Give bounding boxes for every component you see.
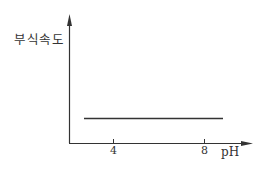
x-tick-label-4: 4 <box>110 144 117 157</box>
x-axis-label: pH <box>221 145 239 159</box>
chart: 부식속도 4 8 pH <box>0 0 268 174</box>
y-axis-label: 부식속도 <box>14 29 64 48</box>
x-tick-label-8: 8 <box>201 144 208 157</box>
x-axis-arrow-icon <box>241 141 253 146</box>
y-axis-arrow-icon <box>67 14 72 26</box>
